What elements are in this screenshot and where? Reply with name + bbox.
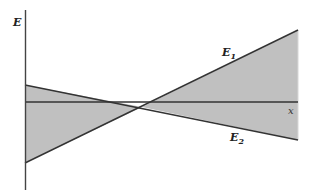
e1-label: E1 [221,46,236,61]
e2-label: E2 [229,131,244,146]
e1-label-subscript: 1 [230,51,236,61]
e2-label-subscript: 2 [237,136,244,146]
right-shaded-wedge [142,30,298,140]
y-axis-label: E [12,16,22,29]
x-axis-label: x [288,105,294,116]
energy-crossing-diagram: E x E1 E2 [0,0,315,192]
